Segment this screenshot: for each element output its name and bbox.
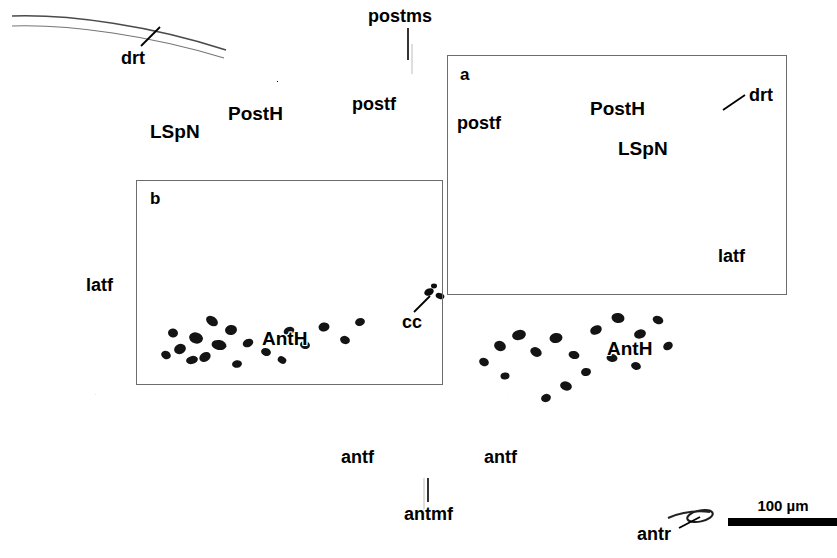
label-antr: antr: [637, 525, 671, 543]
label-anth-left: AntH: [262, 329, 307, 348]
label-postms: postms: [368, 7, 432, 25]
label-lspn-left: LSpN: [150, 122, 200, 141]
roi-box-b[interactable]: [136, 180, 443, 385]
label-anth-right: AntH: [607, 339, 652, 358]
histology-figure: a b drt postms PostH LSpN postf postf Po…: [0, 0, 837, 558]
anterior-horn-right-texture: [455, 295, 720, 425]
scale-bar: 100 µm: [728, 498, 837, 526]
scale-bar-label: 100 µm: [728, 498, 837, 513]
label-posth-left: PostH: [228, 104, 283, 123]
label-drt-left: drt: [121, 49, 145, 67]
anterior-rootlet-tissue: [668, 508, 714, 524]
label-latf-left: latf: [86, 276, 113, 294]
label-lspn-right: LSpN: [618, 139, 668, 158]
roi-label-b: b: [150, 190, 160, 207]
roi-label-a: a: [460, 66, 469, 83]
label-latf-right: latf: [718, 247, 745, 265]
label-drt-right: drt: [749, 86, 773, 104]
label-antf-right: antf: [484, 448, 517, 466]
label-cc: cc: [402, 313, 422, 331]
label-posth-right: PostH: [590, 99, 645, 118]
label-antf-left: antf: [341, 448, 374, 466]
label-postf-left: postf: [352, 95, 396, 113]
label-postf-right: postf: [457, 114, 501, 132]
scale-bar-line: [728, 518, 837, 526]
label-antmf: antmf: [404, 505, 453, 523]
